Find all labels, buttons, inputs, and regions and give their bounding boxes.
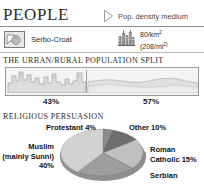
language-fact: Serbo-Croat (0, 31, 72, 48)
pie-label-other: Other 10% (129, 123, 166, 133)
density-metric: 80/km (140, 31, 159, 38)
language-label: Serbo-Croat (31, 35, 72, 44)
pie-label-muslim: Muslim (mainly Sunni) 40% (2, 142, 54, 171)
urban-rural-panel (5, 67, 199, 96)
urban-rural-graphic (6, 68, 198, 93)
facts-row: Serbo-Croat (0, 27, 204, 53)
page-header: PEOPLE Pop. density medium (0, 0, 204, 27)
pie-graphic (57, 124, 149, 186)
density-tag: Pop. density medium (104, 10, 188, 26)
density-tag-label: Pop. density medium (118, 12, 188, 21)
density-values: 80/km2 (208/mi2) (140, 28, 168, 52)
rural-percent: 57% (143, 97, 159, 106)
religion-pie-chart: Protestant 4% Other 10% Muslim (mainly S… (0, 123, 204, 185)
triangle-right-icon (104, 10, 113, 22)
urban-rural-title: THE URBAN/RURAL POPULATION SPLIT (0, 53, 204, 67)
pie-label-protestant: Protestant 4% (46, 123, 96, 133)
speech-portrait-icon (4, 31, 25, 48)
pie-label-roman-catholic: Roman Catholic 15% (150, 145, 204, 164)
density-imperial-sup: 2) (163, 41, 167, 47)
buildings-icon (118, 30, 135, 50)
religion-section: RELIGIOUS PERSUASION Protestant 4% Other… (0, 109, 204, 185)
density-metric-sup: 2 (159, 29, 162, 35)
religion-title: RELIGIOUS PERSUASION (0, 109, 204, 123)
pie-label-serbian-orthodox: Serbian (150, 171, 178, 181)
page-title: PEOPLE (0, 6, 69, 26)
urban-rural-labels: 43% 57% (5, 96, 199, 109)
density-imperial: (208/mi (140, 43, 163, 50)
urban-percent: 43% (43, 97, 59, 106)
population-density-fact: 80/km2 (208/mi2) (118, 28, 168, 52)
